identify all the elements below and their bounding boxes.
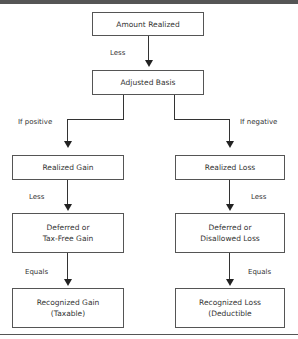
less-label-top: Less (110, 49, 125, 57)
adjusted-basis-box: Adjusted Basis (92, 70, 204, 95)
arrow-deferred-to-recognized-loss (229, 253, 230, 282)
branch-right-vertical (174, 95, 175, 120)
bottom-border-line (0, 334, 298, 335)
branch-left-down (67, 119, 68, 143)
branch-right-down (229, 119, 230, 143)
arrowhead-icon (226, 279, 234, 286)
arrowhead-icon (226, 204, 234, 211)
realized-gain-label: Realized Gain (42, 162, 93, 173)
recognized-loss-label: Recognized Loss (Deductible (199, 297, 261, 319)
deferred-loss-box: Deferred or Disallowed Loss (175, 213, 285, 253)
arrow-amount-to-basis (148, 36, 149, 63)
branch-right-horizontal (174, 119, 230, 120)
realized-loss-box: Realized Loss (175, 155, 285, 180)
amount-realized-label: Amount Realized (116, 19, 179, 30)
deferred-gain-label: Deferred or Tax-Free Gain (43, 222, 94, 244)
arrowhead-icon (64, 204, 72, 211)
recognized-loss-box: Recognized Loss (Deductible (175, 288, 285, 328)
equals-label-right: Equals (248, 268, 271, 276)
less-label-right: Less (251, 193, 266, 201)
arrowhead-icon (145, 60, 153, 67)
arrowhead-icon (226, 141, 234, 148)
arrowhead-icon (64, 141, 72, 148)
equals-label-left: Equals (25, 268, 48, 276)
adjusted-basis-label: Adjusted Basis (121, 77, 176, 88)
realized-gain-box: Realized Gain (12, 155, 124, 180)
arrowhead-icon (64, 279, 72, 286)
recognized-gain-label: Recognized Gain (Taxable) (37, 297, 100, 319)
if-positive-label: If positive (18, 118, 52, 126)
less-label-left: Less (29, 193, 44, 201)
branch-left-horizontal (67, 119, 124, 120)
arrow-deferred-to-recognized-gain (67, 253, 68, 282)
if-negative-label: If negative (240, 118, 277, 126)
realized-loss-label: Realized Loss (205, 162, 255, 173)
arrow-gain-to-deferred (67, 180, 68, 207)
deferred-gain-box: Deferred or Tax-Free Gain (12, 213, 124, 253)
branch-left-vertical (123, 95, 124, 120)
recognized-gain-box: Recognized Gain (Taxable) (12, 288, 124, 328)
top-border-bar (0, 0, 298, 4)
arrow-loss-to-deferred (229, 180, 230, 207)
deferred-loss-label: Deferred or Disallowed Loss (200, 222, 259, 244)
amount-realized-box: Amount Realized (92, 12, 204, 36)
